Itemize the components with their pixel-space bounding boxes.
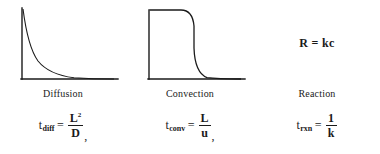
transport-mechanisms-figure: Diffusion tdiff = L2 D , Conve — [0, 0, 380, 154]
convection-chart-svg — [137, 6, 247, 86]
fraction-convection: L u — [199, 112, 211, 139]
equation-subscript: rxn — [300, 124, 312, 133]
fraction-diffusion: L2 D — [68, 112, 84, 139]
fraction-numerator: L — [199, 112, 211, 125]
fraction-denominator: u — [199, 126, 210, 139]
equation-subscript: conv — [169, 124, 185, 133]
fraction-reaction: 1 k — [326, 112, 337, 139]
diffusion-plot — [10, 6, 120, 86]
fraction-denominator: k — [326, 126, 337, 139]
numerator-base: L — [201, 111, 209, 125]
convection-front-curve — [150, 10, 242, 79]
equation-trailing-comma: , — [212, 129, 215, 144]
equals-sign: = — [188, 118, 195, 133]
diffusion-chart-svg — [10, 6, 120, 86]
rate-law-expression: R = kc — [254, 36, 380, 51]
equation-subscript: diff — [43, 124, 55, 133]
equation-t-diff: tdiff = L2 D , — [0, 112, 126, 139]
equation-lhs-reaction: trxn — [296, 118, 311, 133]
equals-sign: = — [57, 118, 64, 133]
panel-label-diffusion: Diffusion — [0, 88, 126, 99]
convection-plot — [137, 6, 247, 86]
equation-variable: t — [165, 118, 168, 133]
fraction-denominator: D — [69, 126, 82, 139]
numerator-exponent: 2 — [78, 111, 82, 119]
equation-variable: t — [296, 118, 299, 133]
panel-diffusion: Diffusion tdiff = L2 D , — [0, 0, 126, 154]
equals-sign: = — [315, 118, 322, 133]
equation-lhs-diffusion: tdiff — [39, 118, 54, 133]
panel-label-convection: Convection — [127, 88, 253, 99]
panel-label-reaction: Reaction — [254, 88, 380, 99]
equation-t-rxn: trxn = 1 k — [254, 112, 380, 139]
equation-trailing-comma: , — [84, 129, 87, 144]
equation-lhs-convection: tconv — [165, 118, 184, 133]
numerator-base: 1 — [328, 111, 334, 125]
equation-t-conv: tconv = L u , — [127, 112, 253, 139]
panel-convection: Convection tconv = L u , — [127, 0, 253, 154]
fraction-numerator: L2 — [68, 112, 84, 125]
fraction-numerator: 1 — [326, 112, 336, 125]
equation-variable: t — [39, 118, 42, 133]
numerator-base: L — [70, 111, 78, 125]
panel-reaction: R = kc Reaction trxn = 1 k — [254, 0, 380, 154]
diffusion-decay-curve — [23, 9, 114, 79]
